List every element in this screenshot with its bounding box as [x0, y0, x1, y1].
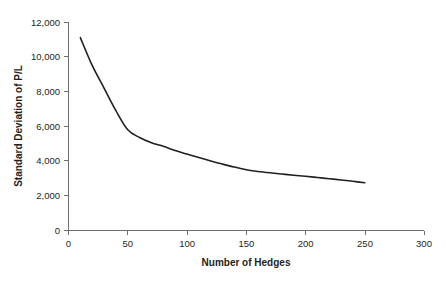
x-tick-label-100: 100 [179, 238, 195, 249]
chart-container: 0 2,000 4,000 6,000 8,000 10,000 12,000 … [0, 0, 446, 288]
y-tick-label-4000: 4,000 [36, 155, 60, 166]
x-tick-label-200: 200 [298, 238, 314, 249]
x-tick-label-300: 300 [416, 238, 432, 249]
y-tick-label-8000: 8,000 [36, 86, 60, 97]
y-tick-label-10000: 10,000 [31, 51, 60, 62]
y-tick-label-12000: 12,000 [31, 17, 60, 28]
x-axis-title: Number of Hedges [202, 257, 291, 268]
y-tick-label-2000: 2,000 [36, 190, 60, 201]
x-tick-label-250: 250 [357, 238, 373, 249]
y-tick-label-0: 0 [55, 225, 60, 236]
y-axis-title: Standard Deviation of P/L [13, 65, 24, 187]
x-tick-label-50: 50 [123, 238, 134, 249]
x-tick-label-0: 0 [66, 238, 71, 249]
line-chart: 0 2,000 4,000 6,000 8,000 10,000 12,000 … [0, 0, 446, 288]
x-tick-label-150: 150 [238, 238, 254, 249]
y-tick-label-6000: 6,000 [36, 121, 60, 132]
